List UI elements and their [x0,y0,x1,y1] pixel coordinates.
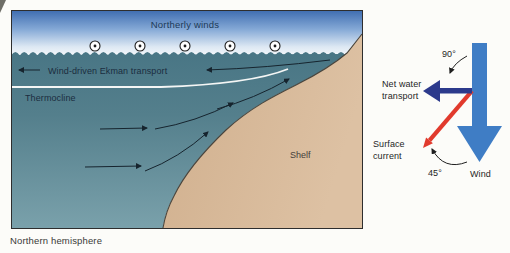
ekman-transport-label: Wind-driven Ekman transport [48,66,168,76]
shelf-label: Shelf [290,150,311,160]
wind-out-of-page-icon [135,41,145,51]
angle-90-label: 90° [442,49,456,59]
rotation-45-arc [432,149,467,165]
wind-vector-panel: 90° 45° Net water transport Surface curr… [370,25,506,185]
ocean-cross-section-diagram: Northerly winds Wind-driven Ekman transp… [11,10,363,229]
surface-current-label-line1: Surface [373,139,405,149]
wind-out-of-page-icon [270,41,280,51]
surface-current-label-line2: current [373,151,402,161]
net-transport-label-line1: Net water [382,79,421,89]
angle-45-label: 45° [428,168,442,178]
net-transport-label-line2: transport [382,91,419,101]
northerly-winds-label: Northerly winds [151,19,220,30]
figure-canvas: Northerly winds Wind-driven Ekman transp… [0,0,510,253]
wind-label: Wind [470,169,491,179]
figure-caption: Northern hemisphere [10,235,102,246]
wind-out-of-page-icon [225,41,235,51]
scan-artifact [0,0,6,13]
thermocline-label: Thermocline [25,93,76,103]
surface-current-arrow [423,91,472,148]
wind-out-of-page-icon [180,41,190,51]
wind-out-of-page-icon [90,41,100,51]
